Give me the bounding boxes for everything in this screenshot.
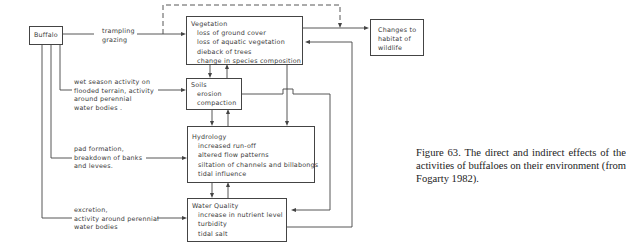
vegetation-item: loss of aquatic vegetation	[187, 38, 302, 47]
edge-label-line: water bodies .	[74, 104, 154, 113]
hydrology-item: tidal influence	[188, 170, 314, 179]
soils-item: compaction	[187, 99, 241, 108]
hydrology-box: Hydrology increased run-off altered flow…	[187, 126, 315, 183]
vegetation-box: Vegetation loss of ground cover loss of …	[186, 16, 303, 65]
edge-label-line: wet season activity on	[74, 78, 154, 87]
vegetation-item: dieback of trees	[187, 48, 302, 57]
buffalo-box: Buffalo	[29, 26, 63, 45]
vegetation-title: Vegetation	[187, 20, 302, 29]
edge-label-to-vegetation: trampling grazing	[102, 27, 135, 44]
edge-label-line: around perennial	[74, 95, 154, 104]
hydrology-title: Hydrology	[188, 133, 314, 142]
hydrology-item: siltation of channels and billabongs	[188, 161, 314, 170]
changes-line: wildlife	[371, 44, 423, 53]
edge-label-line: flooded terrain, activity	[74, 87, 154, 96]
changes-to-habitat-box: Changes to habitat of wildlife	[370, 19, 424, 56]
changes-line: Changes to	[371, 26, 423, 35]
edge-label-line: excretion,	[74, 206, 159, 215]
edge-label-to-hydrology: pad formation, breakdown of banks and le…	[74, 145, 142, 171]
buffalo-label: Buffalo	[30, 27, 62, 40]
edge-label-to-water-quality: excretion, activity around perennial wat…	[74, 206, 159, 232]
soils-title: Soils	[187, 81, 241, 90]
edge-label-line: water bodies	[74, 223, 159, 232]
changes-line: habitat of	[371, 35, 423, 44]
water-quality-item: turbidity	[188, 220, 286, 229]
edge-label-line: breakdown of banks	[74, 154, 142, 163]
soils-box: Soils erosion compaction	[186, 78, 242, 110]
water-quality-item: tidal salt	[188, 230, 286, 239]
hydrology-item: increased run-off	[188, 142, 314, 151]
water-quality-box: Water Quality increase in nutrient level…	[187, 198, 287, 242]
edge-label-to-soils: wet season activity on flooded terrain, …	[74, 78, 154, 112]
edge-label-line: activity around perennial	[74, 215, 159, 224]
water-quality-title: Water Quality	[188, 202, 286, 211]
water-quality-item: increase in nutrient level	[188, 211, 286, 220]
edge-label-line: and levees.	[74, 162, 142, 171]
edge-label-line: pad formation,	[74, 145, 142, 154]
hydrology-item: altered flow patterns	[188, 151, 314, 160]
vegetation-item: change in species composition	[187, 57, 302, 66]
vegetation-item: loss of ground cover	[187, 29, 302, 38]
edge-label-line: grazing	[102, 36, 135, 45]
figure-caption: Figure 63. The direct and indirect effec…	[416, 146, 626, 186]
soils-item: erosion	[187, 90, 241, 99]
edge-label-line: trampling	[102, 27, 135, 36]
